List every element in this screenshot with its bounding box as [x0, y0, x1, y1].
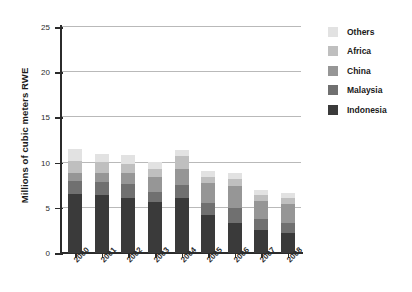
bar-segment-2002-indonesia[interactable] [121, 198, 135, 253]
bar-segment-2003-indonesia[interactable] [148, 202, 162, 253]
legend-swatch-indonesia [328, 105, 338, 115]
bar-segment-2000-others[interactable] [68, 149, 82, 161]
bar-segment-2004-africa[interactable] [175, 156, 189, 169]
bar-segment-2007-africa[interactable] [254, 195, 268, 200]
bar-segment-2000-china[interactable] [68, 173, 82, 181]
bar-segment-2000-malaysia[interactable] [68, 181, 82, 195]
gridline-15 [62, 116, 301, 117]
bar-segment-2008-others[interactable] [281, 193, 295, 198]
bar-segment-2001-malaysia[interactable] [95, 182, 109, 196]
bar-segment-2002-others[interactable] [121, 155, 135, 163]
y-tick-label-25: 25 [28, 23, 50, 32]
y-tick-label-15: 15 [28, 113, 50, 122]
y-tick-label-20: 20 [28, 68, 50, 77]
bar-segment-2004-others[interactable] [175, 150, 189, 156]
bar-segment-2008-malaysia[interactable] [281, 223, 295, 233]
legend-label-china: China [347, 66, 371, 76]
bar-segment-2003-china[interactable] [148, 177, 162, 191]
bar-segment-2005-malaysia[interactable] [201, 203, 215, 215]
legend-item-indonesia[interactable]: Indonesia [328, 100, 412, 120]
bar-segment-2006-china[interactable] [228, 186, 242, 208]
bar-segment-2001-others[interactable] [95, 154, 109, 161]
plot-area [62, 27, 301, 253]
bar-segment-2006-others[interactable] [228, 173, 242, 179]
bar-segment-2007-others[interactable] [254, 190, 268, 195]
gridline-25 [62, 26, 301, 27]
legend-item-malaysia[interactable]: Malaysia [328, 81, 412, 101]
bar-segment-2001-china[interactable] [95, 173, 109, 182]
bar-segment-2007-malaysia[interactable] [254, 219, 268, 231]
bar-segment-2004-indonesia[interactable] [175, 198, 189, 253]
bar-segment-2002-malaysia[interactable] [121, 184, 135, 198]
stacked-bar-chart: Millions of cubic meters RWE 0510152025 … [0, 0, 412, 292]
legend-label-malaysia: Malaysia [347, 85, 382, 95]
y-tick-label-0: 0 [28, 249, 50, 258]
chart-legend: OthersAfricaChinaMalaysiaIndonesia [328, 22, 412, 120]
y-tick-label-5: 5 [28, 203, 50, 212]
bar-segment-2000-indonesia[interactable] [68, 194, 82, 253]
bar-segment-2003-others[interactable] [148, 162, 162, 169]
bar-segment-2007-china[interactable] [254, 201, 268, 219]
bar-segment-2003-malaysia[interactable] [148, 192, 162, 203]
bar-segment-2006-africa[interactable] [228, 179, 242, 186]
legend-swatch-others [328, 27, 338, 37]
bar-segment-2004-malaysia[interactable] [175, 185, 189, 198]
bar-segment-2005-africa[interactable] [201, 177, 215, 183]
bar-segment-2000-africa[interactable] [68, 161, 82, 173]
bar-segment-2004-china[interactable] [175, 169, 189, 185]
bar-segment-2001-africa[interactable] [95, 162, 109, 173]
bar-segment-2008-africa[interactable] [281, 198, 295, 204]
bar-segment-2002-africa[interactable] [121, 164, 135, 173]
bar-segment-2008-china[interactable] [281, 204, 295, 223]
bar-segment-2006-malaysia[interactable] [228, 208, 242, 223]
bar-segment-2001-indonesia[interactable] [95, 195, 109, 253]
legend-item-africa[interactable]: Africa [328, 42, 412, 62]
legend-item-others[interactable]: Others [328, 22, 412, 42]
bar-segment-2003-africa[interactable] [148, 169, 162, 177]
legend-label-others: Others [347, 27, 374, 37]
legend-swatch-china [328, 66, 338, 76]
legend-label-indonesia: Indonesia [347, 105, 387, 115]
bar-segment-2005-indonesia[interactable] [201, 215, 215, 253]
bar-segment-2002-china[interactable] [121, 173, 135, 185]
bar-segment-2005-others[interactable] [201, 171, 215, 177]
legend-swatch-africa [328, 46, 338, 56]
legend-label-africa: Africa [347, 46, 371, 56]
legend-item-china[interactable]: China [328, 61, 412, 81]
y-tick-label-10: 10 [28, 158, 50, 167]
gridline-20 [62, 71, 301, 72]
legend-swatch-malaysia [328, 85, 338, 95]
bar-segment-2005-china[interactable] [201, 183, 215, 203]
